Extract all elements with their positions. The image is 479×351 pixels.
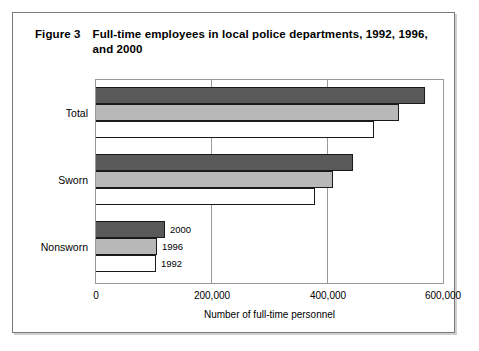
bar-group-total: Total: [95, 83, 444, 142]
figure-caption: Full-time employees in local police depa…: [93, 27, 435, 57]
category-label-nonsworn: Nonsworn: [41, 241, 88, 253]
series-label-1996: 1996: [162, 242, 183, 252]
chart-plot-area: Total Sworn: [95, 79, 444, 284]
bar-total-2000: [96, 87, 425, 104]
bar-row-sworn-1992: [95, 188, 444, 205]
bar-nonsworn-2000: [96, 221, 165, 238]
bar-total-1992: [96, 121, 374, 138]
bar-nonsworn-1996: [96, 238, 157, 255]
bar-sworn-1992: [96, 188, 315, 205]
bar-groups: Total Sworn: [95, 79, 444, 284]
series-label-1992: 1992: [161, 259, 182, 269]
bar-sworn-2000: [96, 154, 353, 171]
figure-number: Figure 3: [35, 27, 81, 42]
bar-sworn-1996: [96, 171, 333, 188]
bar-row-nonsworn-2000: 2000: [95, 221, 444, 238]
x-axis-title: Number of full-time personnel: [95, 309, 444, 320]
bar-nonsworn-1992: [96, 255, 156, 272]
x-tick-400000: 400,000: [310, 290, 346, 301]
figure-title: Figure 3 Full-time employees in local po…: [35, 27, 435, 57]
category-label-total: Total: [66, 107, 88, 119]
bar-group-nonsworn: Nonsworn 2000 1996 1992: [95, 217, 444, 276]
bar-total-1996: [96, 104, 399, 121]
bar-row-total-1996: [95, 104, 444, 121]
bar-row-sworn-2000: [95, 154, 444, 171]
x-tick-200000: 200,000: [194, 290, 230, 301]
bar-row-total-2000: [95, 87, 444, 104]
series-label-2000: 2000: [170, 225, 191, 235]
bar-group-sworn: Sworn: [95, 150, 444, 209]
x-tick-0: 0: [93, 290, 99, 301]
x-axis-tick-labels: 0 200,000 400,000 600,000: [95, 290, 444, 304]
x-tick-600000: 600,000: [425, 290, 461, 301]
bar-row-nonsworn-1992: 1992: [95, 255, 444, 272]
bar-row-sworn-1996: [95, 171, 444, 188]
category-label-sworn: Sworn: [58, 174, 88, 186]
bar-row-total-1992: [95, 121, 444, 138]
figure-frame: Figure 3 Full-time employees in local po…: [12, 12, 455, 333]
bar-row-nonsworn-1996: 1996: [95, 238, 444, 255]
